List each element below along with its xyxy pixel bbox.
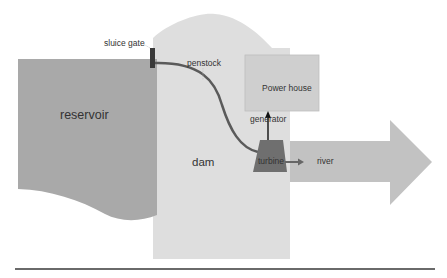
power-house-label: Power house: [262, 83, 312, 93]
dam-label: dam: [192, 156, 214, 168]
turbine-label: turbine: [258, 156, 284, 166]
hydroelectric-diagram: sluice gate penstock Power house generat…: [0, 0, 447, 278]
dam-shape: [153, 14, 290, 259]
sluice-gate-label: sluice gate: [104, 38, 145, 48]
penstock-label: penstock: [187, 58, 222, 68]
river-label: river: [317, 156, 334, 166]
generator-label: generator: [250, 114, 287, 124]
sluice-gate: [150, 48, 155, 68]
reservoir-label: reservoir: [60, 108, 109, 122]
reservoir-shape: [18, 59, 157, 220]
river-arrow: [290, 120, 432, 205]
